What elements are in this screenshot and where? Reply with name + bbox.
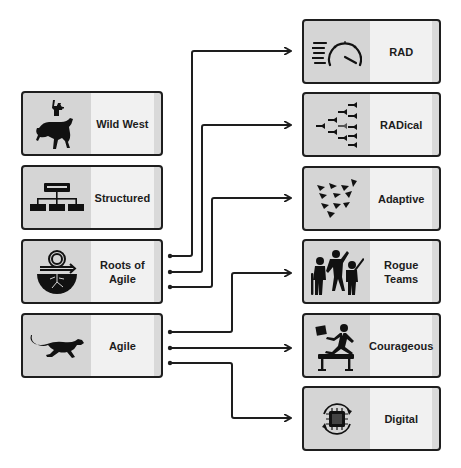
card-label: Rogue Teams bbox=[384, 258, 418, 286]
card-label-panel: RAD bbox=[370, 21, 432, 82]
cycle-arrow-with-roots-icon bbox=[23, 241, 91, 302]
card-label: Adaptive bbox=[378, 192, 424, 206]
fish-school-icon bbox=[304, 94, 370, 155]
card-digital: Digital bbox=[302, 386, 441, 451]
card-wild-west: Wild West bbox=[21, 91, 163, 156]
card-roots-of-agile: Roots of Agile bbox=[21, 239, 163, 304]
hierarchy-org-chart-icon bbox=[23, 167, 91, 228]
connector-roots-to-radical bbox=[168, 125, 290, 274]
cowboy-on-bucking-horse-icon bbox=[23, 93, 91, 154]
agile-evolution-diagram: Wild West Structured bbox=[0, 0, 461, 468]
card-label: Roots of Agile bbox=[100, 258, 145, 286]
card-label-panel: Wild West bbox=[91, 93, 155, 154]
card-rad: RAD bbox=[302, 19, 441, 84]
connector-agile-to-courageous bbox=[168, 346, 290, 350]
card-label-panel: Roots of Agile bbox=[91, 241, 155, 302]
paper-planes-flock-icon bbox=[304, 168, 370, 229]
card-label: Structured bbox=[95, 191, 151, 205]
card-label-panel: Courageous bbox=[370, 315, 432, 376]
card-courageous: Courageous bbox=[302, 313, 441, 378]
connector-roots-to-rad bbox=[168, 51, 290, 258]
card-adaptive: Adaptive bbox=[302, 166, 441, 231]
card-label: Agile bbox=[109, 339, 136, 353]
card-radical: RADical bbox=[302, 92, 441, 157]
card-agile: Agile bbox=[21, 313, 163, 378]
speedometer-icon bbox=[304, 21, 370, 82]
rogue-kids-group-icon bbox=[304, 241, 370, 302]
card-rogue-teams: Rogue Teams bbox=[302, 239, 441, 304]
connector-agile-to-digital bbox=[168, 361, 290, 418]
card-label-panel: Rogue Teams bbox=[370, 241, 432, 302]
card-label: Courageous bbox=[369, 339, 433, 353]
card-label: RADical bbox=[380, 118, 422, 132]
card-label: Wild West bbox=[96, 117, 148, 131]
connector-agile-to-rogue-teams bbox=[168, 273, 290, 334]
card-label-panel: Digital bbox=[370, 388, 432, 449]
card-label-panel: RADical bbox=[370, 94, 432, 155]
running-cheetah-icon bbox=[23, 315, 91, 376]
card-label-panel: Structured bbox=[91, 167, 155, 228]
businessman-hurdle-jump-icon bbox=[304, 315, 370, 376]
card-structured: Structured bbox=[21, 165, 163, 230]
card-label-panel: Agile bbox=[91, 315, 155, 376]
connector-roots-to-adaptive bbox=[168, 198, 290, 289]
card-label: RAD bbox=[389, 45, 413, 59]
microchip-cycle-icon bbox=[304, 388, 370, 449]
card-label-panel: Adaptive bbox=[370, 168, 432, 229]
card-label: Digital bbox=[384, 412, 418, 426]
